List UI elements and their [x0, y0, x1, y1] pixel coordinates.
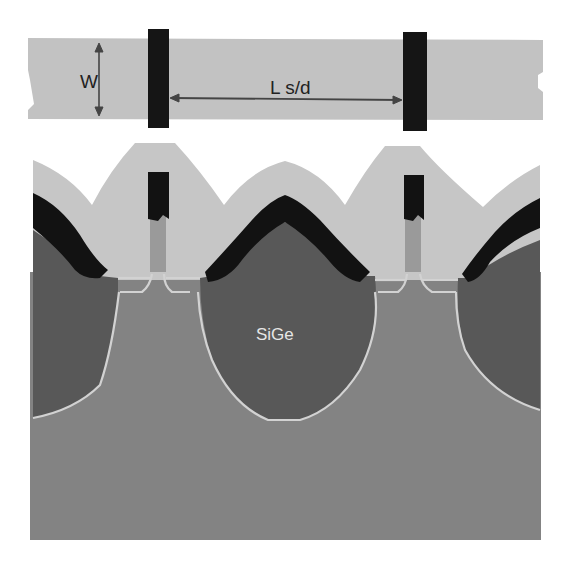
source-drain-length-label: L s/d	[270, 78, 311, 97]
gate-metal-right	[404, 175, 424, 221]
width-label: W	[80, 72, 98, 91]
gate-left	[148, 29, 169, 128]
gate-metal-left	[148, 172, 169, 221]
gate-right	[403, 32, 427, 131]
gate-poly-left	[150, 215, 166, 272]
sige-label: SiGe	[256, 326, 294, 343]
gate-poly-right	[405, 215, 421, 272]
